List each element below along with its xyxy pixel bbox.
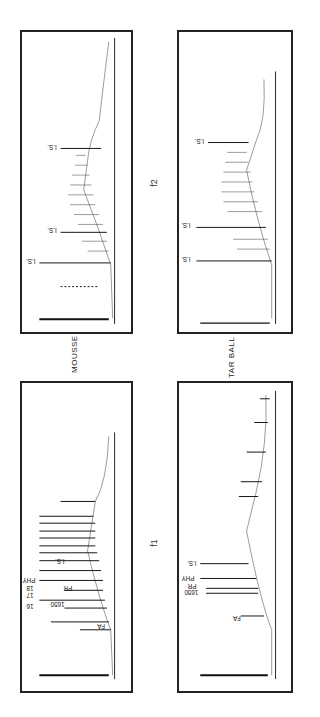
sample-label-mousse: MOUSSE [70,335,79,373]
peak-label: I.S. [181,256,191,263]
peak-label-fa: FA [232,615,240,622]
chromatogram-mousse-f1: I.S. PHY 18 PR 17 1650 16 FA [20,381,133,693]
peak-label-1650: 1650 [184,589,198,596]
chromatogram-mousse-f2: I.S. I.S. I.S. [20,30,133,334]
peak-label: I.S. [47,143,57,150]
fraction-label-f1: f1 [149,539,159,547]
chromatogram-plot: I.S. PHY PR 1650 FA [179,383,291,691]
peak-label-1650: 1650 [50,601,64,608]
chromatogram-plot: I.S. I.S. I.S. [22,32,131,332]
chromatogram-plot: I.S. PHY 18 PR 17 1650 16 FA [22,383,131,691]
peak-label: I.S. [194,138,204,145]
chromatogram-plot: I.S. I.S. I.S. [179,32,291,332]
peak-label: I.S. [26,258,36,265]
peak-label-16: 16 [26,603,33,610]
peak-label: I.S. [47,227,57,234]
peak-label-phy: PHY [22,577,36,584]
peak-label-18: 18 [26,585,33,592]
peak-label-fa: FA [97,623,105,630]
peak-label-is: I.S. [55,558,65,565]
peak-label: I.S. [181,222,191,229]
peak-label-is: I.S. [187,560,197,567]
chromatogram-tarball-f2: I.S. I.S. I.S. [177,30,293,334]
peak-label-pr: PR [63,585,72,592]
peak-label-17: 17 [26,592,33,599]
peak-label-phy: PHY [181,575,195,582]
sample-label-tarball: TAR BALL [227,337,236,378]
fraction-label-f2: f2 [149,179,159,187]
chromatogram-tarball-f1: I.S. PHY PR 1650 FA [177,381,293,693]
